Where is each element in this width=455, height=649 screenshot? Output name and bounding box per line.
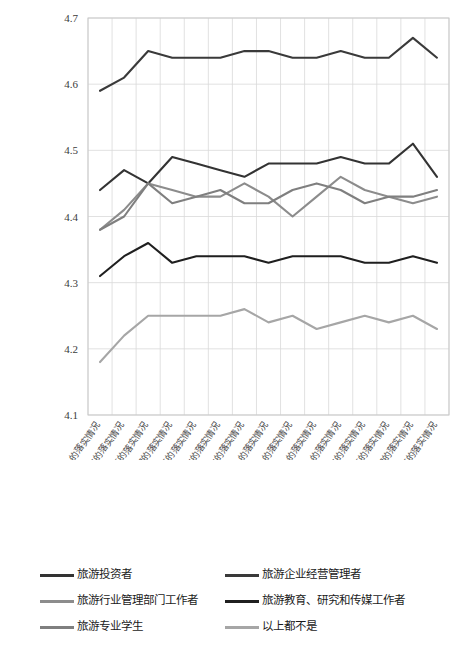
legend-color-swatch (225, 626, 259, 629)
legend-color-swatch (225, 574, 259, 577)
line-chart-svg: 4.14.24.34.44.54.64.7评价土地政策一的落实情况评价土地政策二… (0, 0, 455, 460)
legend-row: 旅游行业管理部门工作者旅游教育、研究和传媒工作者 (40, 588, 440, 614)
legend-item[interactable]: 旅游行业管理部门工作者 (40, 588, 225, 614)
y-axis-tick-label: 4.3 (64, 277, 78, 289)
y-axis-tick-label: 4.4 (64, 211, 78, 223)
legend-item[interactable]: 以上都不是 (225, 614, 440, 640)
legend-item[interactable]: 旅游教育、研究和传媒工作者 (225, 588, 440, 614)
legend-label: 旅游行业管理部门工作者 (77, 595, 198, 607)
plot-area: 4.14.24.34.44.54.64.7评价土地政策一的落实情况评价土地政策二… (0, 0, 455, 460)
legend-row: 旅游投资者旅游企业经营管理者 (40, 562, 440, 588)
legend-label: 旅游投资者 (77, 569, 132, 581)
legend-color-swatch (40, 626, 74, 629)
legend-row: 旅游专业学生以上都不是 (40, 614, 440, 640)
legend-item[interactable]: 旅游专业学生 (40, 614, 225, 640)
legend-color-swatch (225, 600, 259, 603)
chart-figure: 4.14.24.34.44.54.64.7评价土地政策一的落实情况评价土地政策二… (0, 0, 455, 649)
y-axis-tick-label: 4.5 (64, 144, 78, 156)
y-axis-tick-label: 4.6 (64, 78, 78, 90)
chart-legend: 旅游投资者旅游企业经营管理者旅游行业管理部门工作者旅游教育、研究和传媒工作者旅游… (40, 562, 440, 642)
legend-color-swatch (40, 600, 74, 603)
legend-label: 旅游教育、研究和传媒工作者 (262, 595, 405, 607)
legend-label: 旅游专业学生 (77, 621, 143, 633)
legend-item[interactable]: 旅游企业经营管理者 (225, 562, 440, 588)
y-axis-tick-label: 4.7 (64, 12, 78, 24)
legend-color-swatch (40, 574, 74, 577)
legend-item[interactable]: 旅游投资者 (40, 562, 225, 588)
x-axis-tick-label: 评价土地政策一的落实情况 (31, 420, 102, 460)
y-axis-tick-label: 4.2 (64, 343, 78, 355)
legend-label: 以上都不是 (262, 621, 317, 633)
legend-label: 旅游企业经营管理者 (262, 569, 361, 581)
y-axis-tick-label: 4.1 (64, 409, 78, 421)
